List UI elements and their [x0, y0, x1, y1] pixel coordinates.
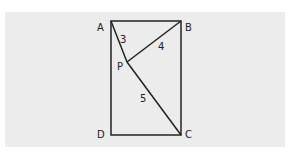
vertex-label-b: B [185, 22, 192, 33]
vertex-label-c: C [185, 129, 192, 140]
segment-cp [127, 62, 181, 135]
segment-bp [127, 21, 181, 62]
length-label-ap: 3 [120, 34, 126, 45]
vertex-label-d: D [97, 129, 105, 140]
length-label-cp: 5 [140, 93, 146, 104]
point-label-p: P [117, 61, 123, 72]
vertex-label-a: A [97, 22, 104, 33]
length-label-bp: 4 [158, 41, 164, 52]
rectangle-diagram: A B C D P 3 4 5 [0, 0, 298, 154]
